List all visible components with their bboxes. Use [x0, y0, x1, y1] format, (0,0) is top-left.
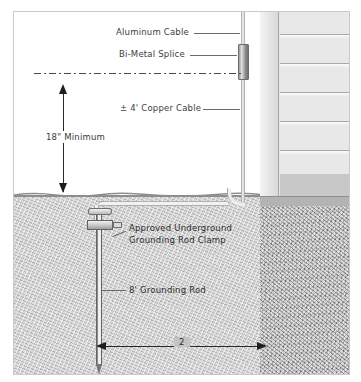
- arrow-left-icon: [96, 342, 106, 350]
- grounding-rod-head: [88, 208, 112, 215]
- drawing-frame: 18" Minimum 2 Aluminum Cable Bi-Metal Sp…: [13, 11, 350, 375]
- copper-cable-leader: [203, 109, 240, 110]
- depth-dimension-label: 18" Minimum: [44, 131, 107, 143]
- clamp-label-line2: Grounding Rod Clamp: [129, 235, 226, 246]
- copper-cable-label: ± 4' Copper Cable: [120, 103, 201, 114]
- arrow-right-icon: [257, 342, 267, 350]
- bimetal-splice-label: Bi-Metal Splice: [119, 49, 185, 60]
- aluminum-cable-label: Aluminum Cable: [116, 27, 189, 38]
- soil-region-right: [260, 206, 350, 375]
- diagram-canvas: 18" Minimum 2 Aluminum Cable Bi-Metal Sp…: [0, 0, 361, 382]
- corner-trim-board: [260, 12, 279, 196]
- clamp-label-line1: Approved Underground: [129, 223, 232, 234]
- spacing-dimension-label: 2: [174, 337, 190, 347]
- bimetal-splice: [238, 44, 249, 80]
- wall-base-shadow: [280, 174, 350, 196]
- copper-cable-vertical: [241, 78, 245, 206]
- grounding-rod-tip: [96, 364, 102, 375]
- copper-cable-horizontal: [96, 201, 228, 206]
- arrow-up-icon: [59, 84, 67, 94]
- grounding-rod-label: 8' Grounding Rod: [129, 285, 206, 296]
- bimetal-splice-leader: [190, 55, 237, 56]
- lap-siding: [280, 12, 350, 196]
- grade-reference-centerline: [34, 73, 244, 74]
- aluminum-cable-leader: [194, 33, 240, 34]
- arrow-down-icon: [59, 183, 67, 193]
- grounding-rod-leader: [102, 290, 126, 291]
